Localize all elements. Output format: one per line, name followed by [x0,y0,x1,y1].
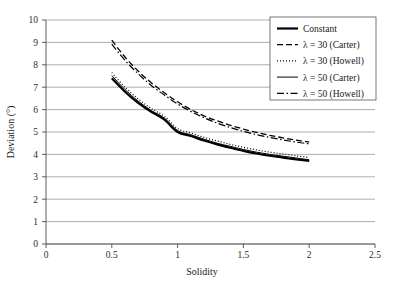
y-tick-label: 0 [33,239,38,249]
chart-svg: 00.511.522.5 012345678910 Solidity Devia… [0,0,404,284]
legend-label: λ = 30 (Howell) [303,56,364,67]
x-tick-label: 2 [307,250,312,260]
y-tick-label: 2 [33,195,38,205]
y-tick-label: 7 [33,83,38,93]
y-tick-label: 9 [33,38,38,48]
legend-label: Constant [303,24,337,34]
x-tick-label: 1.5 [237,250,249,260]
legend-label: λ = 50 (Carter) [303,73,360,84]
legend-label: λ = 30 (Carter) [303,40,360,51]
y-tick-label: 3 [33,172,38,182]
y-tick-marks-group [42,20,46,244]
y-axis-title: Deviation (°) [5,106,17,159]
legend: Constantλ = 30 (Carter)λ = 30 (Howell)λ … [270,17,376,100]
x-tick-label: 2.5 [369,250,381,260]
y-tick-labels-group: 012345678910 [29,15,39,249]
x-axis-title: Solidity [186,266,218,277]
x-tick-marks-group [46,244,375,248]
y-tick-label: 10 [29,15,39,25]
y-tick-label: 1 [33,217,38,227]
legend-label: λ = 50 (Howell) [303,89,364,100]
chart-figure: 00.511.522.5 012345678910 Solidity Devia… [0,0,404,284]
x-tick-label: 0 [44,250,49,260]
x-tick-labels-group: 00.511.522.5 [44,250,382,260]
y-tick-label: 4 [33,150,38,160]
y-tick-label: 6 [33,105,38,115]
x-tick-label: 1 [175,250,180,260]
x-tick-label: 0.5 [106,250,118,260]
y-tick-label: 5 [33,127,38,137]
y-tick-label: 8 [33,60,38,70]
